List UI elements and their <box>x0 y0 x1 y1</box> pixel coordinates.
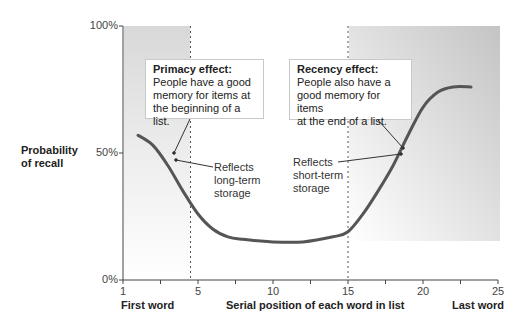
primacy-line-1: People have a good <box>153 76 258 89</box>
x-tick-label: 15 <box>336 285 360 297</box>
long-term-line-1: Reflects <box>214 161 260 174</box>
long-term-line-2: long-term <box>214 174 260 187</box>
recency-line-2: good memory for items <box>297 89 406 115</box>
y-tick-label: 100% <box>78 19 118 31</box>
primacy-effect-title: Primacy effect: <box>153 63 258 76</box>
short-term-note: Reflects short-term storage <box>293 156 343 195</box>
short-term-line-1: Reflects <box>293 156 343 169</box>
y-axis-title-line2: of recall <box>21 157 78 170</box>
primacy-effect-box: Primacy effect: People have a good memor… <box>145 59 264 119</box>
recency-line-3: at the end of a list. <box>297 115 406 128</box>
x-tick-label: 10 <box>261 285 285 297</box>
primacy-line-2: memory for items at <box>153 89 258 102</box>
y-axis-title: Probability of recall <box>21 144 78 170</box>
x-axis-title: Serial position of each word in list <box>226 299 404 311</box>
y-axis-title-line1: Probability <box>21 144 78 157</box>
short-term-line-2: short-term <box>293 169 343 182</box>
long-term-line-3: storage <box>214 187 260 200</box>
x-tick-label: 5 <box>186 285 210 297</box>
recency-effect-title: Recency effect: <box>297 63 406 76</box>
x-first-word-label: First word <box>121 299 174 311</box>
long-term-note: Reflects long-term storage <box>214 161 260 200</box>
x-last-word-label: Last word <box>452 299 504 311</box>
x-tick-label: 1 <box>111 285 135 297</box>
short-term-line-3: storage <box>293 182 343 195</box>
x-tick-label: 25 <box>486 285 510 297</box>
y-tick-label: 0% <box>78 273 118 285</box>
recency-effect-box: Recency effect: People also have a good … <box>289 59 412 120</box>
primacy-line-3: the beginning of a list. <box>153 102 258 128</box>
y-tick-label: 50% <box>78 146 118 158</box>
recency-line-1: People also have a <box>297 76 406 89</box>
x-tick-label: 20 <box>411 285 435 297</box>
